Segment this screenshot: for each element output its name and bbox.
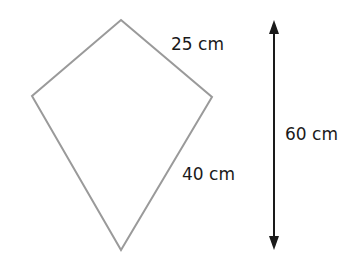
kite-shape (32, 20, 212, 250)
kite-diagram: 25 cm 40 cm 60 cm (0, 0, 361, 259)
height-label: 60 cm (285, 126, 338, 143)
long-side-label: 40 cm (182, 166, 235, 183)
short-side-label: 25 cm (171, 36, 224, 53)
arrow-down-icon (269, 236, 279, 250)
height-arrow (269, 20, 279, 250)
arrow-up-icon (269, 20, 279, 34)
